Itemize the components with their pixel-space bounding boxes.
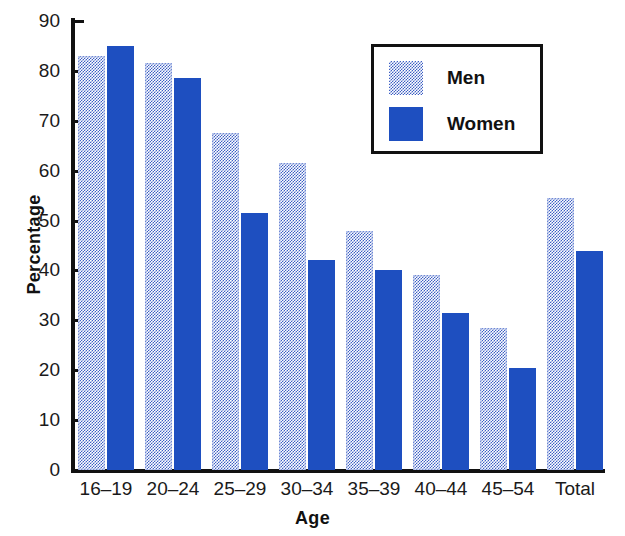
legend-label-women: Women <box>447 113 515 135</box>
bar-women <box>107 46 134 470</box>
y-tick-label: 60 <box>26 161 60 180</box>
legend-swatch-women-icon <box>389 107 423 141</box>
bar-group <box>78 21 134 470</box>
y-tick-label: 0 <box>26 460 60 479</box>
y-axis-tick-labels: 0102030405060708090 <box>16 0 60 536</box>
y-tick-label: 80 <box>26 61 60 80</box>
bar-women <box>174 78 201 470</box>
bar-group <box>212 21 268 470</box>
y-tick-label: 10 <box>26 410 60 429</box>
bar-group <box>547 21 603 470</box>
bar-men <box>212 133 239 470</box>
bar-men <box>279 163 306 470</box>
legend-label-men: Men <box>447 67 485 89</box>
bar-group <box>145 21 201 470</box>
y-tick-label: 90 <box>26 11 60 30</box>
bar-women <box>375 270 402 470</box>
bar-chart: Percentage 0102030405060708090 16–1920–2… <box>0 0 625 536</box>
bar-women <box>442 313 469 470</box>
bar-men <box>145 63 172 470</box>
bar-men <box>346 231 373 470</box>
bar-men <box>78 56 105 470</box>
y-tick-label: 30 <box>26 310 60 329</box>
legend: Men Women <box>371 44 543 154</box>
bar-men <box>547 198 574 470</box>
bar-women <box>241 213 268 470</box>
bar-men <box>413 275 440 470</box>
y-tick-label: 50 <box>26 211 60 230</box>
y-tick-label: 70 <box>26 111 60 130</box>
bar-women <box>308 260 335 470</box>
y-tick-label: 40 <box>26 260 60 279</box>
bar-group <box>279 21 335 470</box>
x-axis-title: Age <box>0 508 625 529</box>
x-tick-label: Total <box>535 478 615 500</box>
bar-women <box>509 368 536 470</box>
bar-men <box>480 328 507 470</box>
y-tick-label: 20 <box>26 360 60 379</box>
legend-swatch-men-icon <box>389 61 423 95</box>
bar-women <box>576 251 603 471</box>
